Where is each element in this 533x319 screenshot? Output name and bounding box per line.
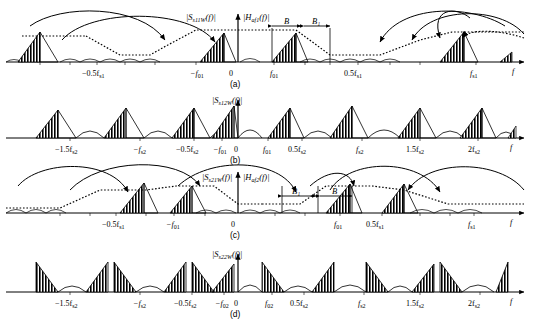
panel-b-tick-label-1: −fs2 bbox=[133, 145, 146, 155]
panel-b-tick-label-3: −f01 bbox=[213, 145, 227, 155]
panel-c-alias-arrow-6 bbox=[310, 173, 354, 186]
panel-d-tick-label-7: fs2 bbox=[358, 299, 366, 309]
panel-b-replica-3 bbox=[172, 108, 194, 138]
panel-a-replica-4 bbox=[440, 32, 464, 62]
panel-a-bandwidth-label-B1: B₁ bbox=[312, 16, 320, 26]
panel-a-tick-label-0: −0.5fs1 bbox=[82, 69, 105, 79]
panel-b-id-label: (b) bbox=[230, 155, 241, 165]
panel-a-filter-label: |Haf1(f)| bbox=[243, 12, 270, 23]
panel-c-alias-arrow-1 bbox=[18, 166, 128, 192]
panel-b-replica-5-tail bbox=[290, 108, 304, 138]
panel-b-arc-6 bbox=[368, 130, 400, 138]
panel-a-spectrum-label: |Ss11W(f)| bbox=[186, 12, 216, 23]
panel-d-axis-label: f bbox=[510, 297, 514, 306]
panel-d-arc-2 bbox=[136, 286, 164, 292]
panel-c-replica-3 bbox=[326, 184, 350, 213]
panel-d-arc-8 bbox=[462, 285, 494, 292]
panel-a-replica-5 bbox=[500, 52, 512, 62]
panel-b-arc-4 bbox=[238, 130, 262, 138]
panel-b-replica-3-tail bbox=[194, 108, 210, 138]
panel-b-replica-1-tail bbox=[58, 110, 76, 138]
panel-d-replica-4 bbox=[164, 262, 186, 292]
panel-b-spectrum-label: |Ss12W(f)| bbox=[212, 95, 242, 106]
panel-a-noise-lobes-3 bbox=[240, 59, 260, 63]
panel-a-id-label: (a) bbox=[230, 79, 241, 89]
panel-a-tick-label-5: fs1 bbox=[470, 69, 478, 79]
panel-c-tick-label-origin: 0 bbox=[231, 220, 235, 229]
panel-c-spectrum-label: |Ss21W(f)| bbox=[202, 172, 232, 183]
panel-d-replica-12 bbox=[496, 262, 508, 292]
panel-b-replica-8-tail bbox=[482, 108, 496, 138]
panel-d-arc-5 bbox=[284, 286, 312, 292]
panel-c-alias-arrow-3 bbox=[178, 165, 296, 192]
panel-b-replicas bbox=[36, 106, 516, 138]
panel-d-tick-label-1: −fs2 bbox=[133, 299, 146, 309]
panel-d-replica-8 bbox=[312, 262, 334, 292]
panel-c-tick-label-0: −0.5fs1 bbox=[102, 220, 125, 230]
panel-d-replica-10 bbox=[412, 264, 434, 292]
panel-d-replica-2 bbox=[86, 262, 108, 292]
panel-c-tick-label-5: fs1 bbox=[468, 220, 476, 230]
panel-d-tick-label-2: −0.5fs2 bbox=[174, 299, 197, 309]
panel-b-replica-7-tail bbox=[420, 108, 436, 138]
panel-b-tick-label-5: f01 bbox=[263, 145, 271, 155]
panel-c-replica-4-tail bbox=[404, 184, 418, 213]
panel-d-replica-5 bbox=[192, 262, 214, 292]
panel-a-replica-2-tail bbox=[224, 33, 236, 62]
panel-d-arc-1 bbox=[58, 286, 86, 292]
panel-c-alias-arrow-2 bbox=[70, 165, 200, 190]
panel-b-tick-label-origin: 0 bbox=[234, 145, 238, 154]
panel-d-tick-label-6: 0.5fs2 bbox=[290, 299, 308, 309]
panel-c-noise-lobes-4 bbox=[410, 210, 482, 214]
panel-d-arc-7 bbox=[388, 286, 412, 292]
panel-d-tick-label-5: f02 bbox=[265, 299, 273, 309]
panel-a-tick-label-4: 0.5fs1 bbox=[344, 69, 362, 79]
panel-a-replica-2 bbox=[200, 33, 224, 62]
panel-d-replica-3 bbox=[114, 262, 136, 292]
panel-c-filter-label: |Haf2(f)| bbox=[243, 172, 270, 183]
panel-d-replicas bbox=[36, 262, 508, 292]
panel-d-replica-6 bbox=[212, 264, 234, 292]
panel-a-axis-label: f bbox=[512, 67, 516, 76]
panel-d-arc-4 bbox=[238, 285, 262, 292]
panel-b-arc-1 bbox=[76, 131, 104, 138]
panel-c-replica-1 bbox=[120, 183, 144, 213]
panel-a-filter-envelope-2 bbox=[86, 30, 262, 55]
panel-b-tick-label-9: 2fs2 bbox=[468, 145, 480, 155]
panel-b-replica-4 bbox=[212, 106, 234, 138]
panel-a-replica-3-tail bbox=[296, 33, 308, 62]
panel-d-tick-label-0: −1.5fs2 bbox=[55, 299, 78, 309]
panel-a-tick-label-3: f01 bbox=[270, 69, 278, 79]
panel-c-noise-lobes-1 bbox=[6, 210, 66, 214]
panel-b-replica-5 bbox=[268, 108, 290, 138]
panel-a-bandwidth-label-B: B bbox=[284, 16, 289, 26]
panel-a-replica-3 bbox=[272, 33, 296, 62]
panel-d-id-label: (d) bbox=[230, 309, 241, 319]
panel-c-alias-arrow-5 bbox=[408, 167, 524, 190]
panel-b-tick-label-6: 0.5fs2 bbox=[288, 145, 306, 155]
panel-d-replica-7 bbox=[262, 262, 284, 292]
panel-a: B B₁ |Ss11W(f)| |Haf1(f)| −0.5fs1 −f01 0… bbox=[6, 11, 524, 89]
panel-d-tick-label-3: −f02 bbox=[215, 299, 229, 309]
panel-c-replica-1-tail bbox=[144, 183, 158, 213]
panel-b-tick-label-2: −0.5fs2 bbox=[176, 145, 199, 155]
panel-d-tick-label-8: 1.5fs2 bbox=[406, 299, 424, 309]
signal-spectra-figure: B B₁ |Ss11W(f)| |Haf1(f)| −0.5fs1 −f01 0… bbox=[0, 0, 533, 319]
panel-c-axis-label: f bbox=[510, 218, 514, 227]
panel-d-replica-9 bbox=[366, 262, 388, 292]
panel-c-tick-label-3: f01 bbox=[334, 220, 342, 230]
panel-b-arc-7 bbox=[436, 131, 464, 138]
panel-a-alias-arrow-3 bbox=[380, 11, 505, 42]
panel-d-replica-1 bbox=[36, 262, 58, 292]
panel-d-replica-11 bbox=[440, 262, 462, 292]
panel-b-replica-6 bbox=[330, 106, 352, 138]
panel-a-alias-arrow-4 bbox=[412, 14, 524, 40]
panel-c-replica-2-tail bbox=[192, 186, 206, 213]
panel-b-replica-6-tail bbox=[352, 106, 368, 138]
panel-c-tick-label-4: 0.5fs1 bbox=[366, 220, 384, 230]
panel-a-filter-envelope-3 bbox=[262, 30, 524, 55]
panel-d-spectrum-label: |Ss22W(f)| bbox=[212, 249, 242, 260]
panel-b-replica-7 bbox=[398, 108, 420, 138]
panel-c-tick-label-1: −f01 bbox=[166, 220, 180, 230]
panel-c-replica-2 bbox=[170, 186, 192, 213]
